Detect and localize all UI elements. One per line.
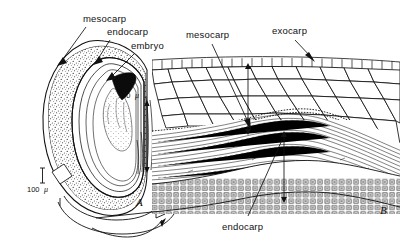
figure-canvas: 100 μ A — [0, 0, 404, 245]
scale-bar-a-unit: μ — [43, 185, 48, 194]
scale-bar-a-value: 100 — [27, 185, 40, 194]
callout-label-embryo-a: embryo — [131, 40, 164, 51]
panel-b: 100 μ B — [118, 57, 404, 218]
callout-label-endocarp-a: endocarp — [107, 26, 148, 37]
panel-a-label: A — [135, 196, 143, 208]
scale-bar-b-value: 100 — [118, 91, 131, 100]
scale-bar-b-unit: μ — [134, 91, 139, 100]
callout-label-exocarp-b: exocarp — [272, 25, 307, 36]
callout-label-mesocarp-b: mesocarp — [186, 29, 229, 40]
callout-label-endocarp-b: endocarp — [222, 221, 263, 232]
callout-label-mesocarp-a: mesocarp — [83, 13, 126, 24]
panel-b-label: B — [380, 204, 387, 216]
endocarp-layer-b — [150, 178, 404, 218]
